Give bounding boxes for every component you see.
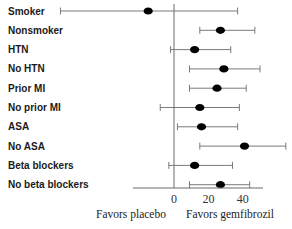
row-label: ASA	[8, 121, 29, 132]
row-label: Nonsmoker	[8, 25, 63, 36]
row-label: Prior MI	[8, 83, 45, 94]
point-estimate	[197, 123, 206, 130]
row-label: No beta blockers	[8, 179, 89, 190]
x-tick-label: 0	[171, 192, 177, 206]
forest-row	[200, 27, 255, 34]
row-label: Beta blockers	[8, 160, 74, 171]
row-label: No HTN	[8, 63, 45, 74]
forest-row	[60, 7, 237, 14]
point-estimate	[216, 27, 225, 34]
point-estimate	[190, 162, 199, 169]
point-estimate	[240, 143, 249, 150]
x-axis-ticks: 02040	[171, 192, 249, 206]
forest-row	[169, 162, 233, 169]
forest-row	[189, 65, 260, 72]
point-estimate	[190, 46, 199, 53]
point-estimate	[195, 104, 204, 111]
forest-row	[177, 123, 237, 130]
point-estimate	[216, 181, 225, 188]
row-label: HTN	[8, 44, 29, 55]
x-tick-label: 40	[237, 192, 249, 206]
row-label: No ASA	[8, 141, 45, 152]
favors-gemfibrozil-label: Favors gemfibrozil	[186, 208, 274, 221]
row-labels: SmokerNonsmokerHTNNo HTNPrior MINo prior…	[8, 6, 89, 191]
point-estimate	[212, 85, 221, 92]
x-tick-label: 20	[202, 192, 214, 206]
row-label: Smoker	[8, 6, 45, 17]
row-label: No prior MI	[8, 102, 61, 113]
forest-row	[160, 104, 239, 111]
point-estimate	[219, 65, 228, 72]
forest-row	[189, 85, 246, 92]
point-estimate	[144, 7, 153, 14]
forest-plot: SmokerNonsmokerHTNNo HTNPrior MINo prior…	[0, 0, 292, 229]
forest-row	[189, 181, 249, 188]
forest-row	[200, 143, 286, 150]
favors-placebo-label: Favors placebo	[96, 208, 166, 221]
forest-row	[171, 46, 231, 53]
confidence-intervals	[60, 7, 285, 188]
